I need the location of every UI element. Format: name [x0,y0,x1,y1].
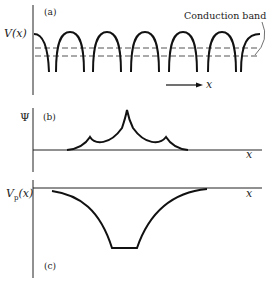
panel-c-ylabel-arg: (x) [18,187,33,200]
panel-b-ylabel: Ψ [20,111,30,124]
panel-c-label: (c) [44,261,56,271]
panel-c-xlabel: x [246,187,253,200]
periodic-potential-curve [34,32,260,72]
wavefunction-curve [67,110,188,150]
panel-a-ylabel: V(x) [4,27,27,40]
panel-c: Vp(x) x (c) [6,180,262,278]
panel-b: Ψ (b) x [20,108,262,172]
panel-a-arrow-label: x [206,78,213,91]
panel-a: (a) V(x) Conduction band x [4,5,266,95]
arrow-head-icon [196,83,203,88]
conduction-band-label: Conduction band [184,10,266,21]
annotation-leader-line [255,22,265,55]
panel-c-ylabel: Vp(x) [6,187,33,202]
panel-a-label: (a) [44,7,56,17]
impurity-potential-diagram: (a) V(x) Conduction band x Ψ (b) x [0,0,269,283]
panel-b-label: (b) [43,112,56,122]
panel-b-xlabel: x [246,148,253,161]
impurity-potential-well [52,189,207,248]
